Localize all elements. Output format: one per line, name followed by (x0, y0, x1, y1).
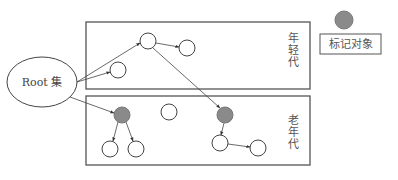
generation-regions: 年轻代老年代 (86, 22, 310, 165)
object-node-o7 (250, 140, 266, 156)
object-node-o2 (161, 104, 177, 120)
edge-o1-o3 (113, 122, 118, 141)
region-box (86, 96, 310, 165)
object-node-o6 (212, 135, 228, 151)
object-node-o3 (102, 141, 118, 157)
region-label-char: 年 (288, 31, 299, 45)
region-old: 老年代 (86, 96, 310, 165)
edge-o1-o4 (126, 122, 133, 141)
region-label-char: 代 (288, 56, 299, 69)
object-node-y1 (140, 33, 156, 49)
root-set-label: Root 集 (22, 75, 62, 89)
legend-label: 标记对象 (329, 37, 373, 51)
marked-object-node-o1 (114, 107, 130, 123)
marked-object-node-o5 (217, 107, 233, 123)
edge-root-o1 (70, 97, 114, 113)
legend: 标记对象 (320, 11, 381, 54)
object-node-o4 (128, 141, 144, 157)
region-label-char: 年 (288, 125, 299, 139)
edge-root-y3 (77, 72, 110, 82)
gc-diagram: 年轻代老年代 Root 集 标记对象 (0, 0, 398, 180)
edge-y1-o5 (153, 48, 220, 108)
edge-y1-y2 (156, 43, 179, 47)
object-node-y3 (110, 62, 126, 78)
legend-marked-dot (335, 11, 353, 29)
edge-o6-o7 (228, 144, 250, 147)
region-label-char: 轻 (288, 43, 299, 57)
region-label-char: 代 (288, 138, 299, 151)
object-node-y2 (179, 40, 195, 56)
reference-edges (70, 43, 250, 147)
edge-o5-o6 (221, 123, 224, 135)
root-set: Root 集 (7, 57, 77, 107)
